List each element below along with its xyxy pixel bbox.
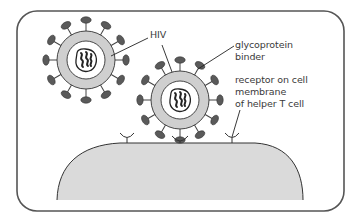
hiv-diagram: HIV glycoprotein binder receptor on cell… (0, 0, 359, 218)
label-glycoprotein-line1: glycoprotein (235, 39, 293, 51)
label-glycoprotein-line2: binder (235, 51, 265, 63)
helper-t-cell (57, 143, 303, 200)
label-receptor-line2: membrane (235, 86, 286, 98)
diagram-canvas (0, 0, 359, 218)
label-receptor-line3: of helper T cell (235, 98, 304, 110)
label-receptor-line1: receptor on cell (235, 74, 308, 86)
label-hiv: HIV (150, 29, 166, 41)
